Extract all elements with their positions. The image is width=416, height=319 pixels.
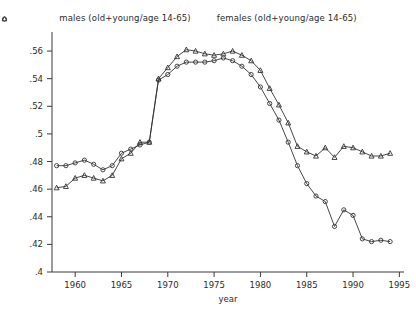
y-tick-label: .42 (29, 239, 43, 249)
chart-container: males (old+young/age 14-65) females (old… (0, 0, 416, 319)
series-males (55, 56, 393, 244)
x-tick-label: 1975 (203, 280, 225, 290)
y-tick-label: .48 (29, 157, 43, 167)
y-tick-label: .5 (35, 129, 43, 139)
axis-lines (52, 32, 404, 272)
series-line (57, 50, 390, 188)
y-axis-ticks: .4.42.44.46.48.5.52.54.56 (29, 46, 52, 277)
y-tick-label: .52 (29, 101, 43, 111)
x-axis-ticks: 19601965197019751980198519901995 (64, 272, 410, 290)
y-tick-label: .44 (29, 212, 43, 222)
y-tick-label: .56 (29, 46, 43, 56)
x-tick-label: 1990 (342, 280, 364, 290)
series-line (57, 58, 390, 242)
x-tick-label: 1960 (64, 280, 86, 290)
chart-plot-area: .4.42.44.46.48.5.52.54.56 19601965197019… (0, 0, 416, 319)
x-tick-label: 1985 (296, 280, 318, 290)
x-tick-label: 1980 (250, 280, 272, 290)
x-tick-label: 1970 (157, 280, 179, 290)
y-tick-label: .46 (29, 184, 43, 194)
y-tick-label: .54 (29, 74, 43, 84)
data-point-triangle (388, 151, 393, 156)
x-axis-title: year (219, 294, 238, 304)
x-tick-label: 1965 (111, 280, 133, 290)
x-tick-label: 1995 (389, 280, 411, 290)
data-series-layer (54, 47, 392, 244)
y-tick-label: .4 (35, 267, 43, 277)
